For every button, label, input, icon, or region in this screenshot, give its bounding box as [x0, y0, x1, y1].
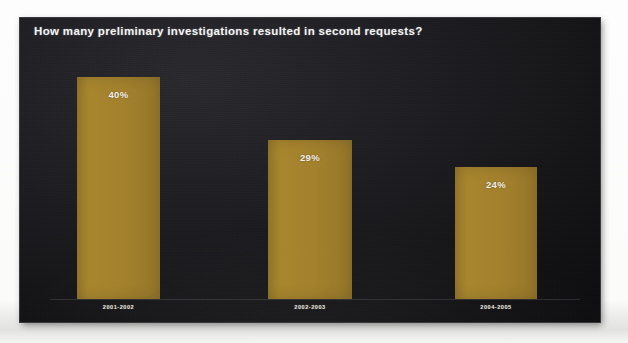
bar-chart: 40% 2001-2002 29% 2002-2003 24% 2004-200… — [20, 18, 600, 322]
chart-baseline — [50, 299, 580, 300]
presentation-slide: How many preliminary investigations resu… — [20, 18, 600, 322]
category-label-2002-2003: 2002-2003 — [268, 304, 352, 310]
category-label-2001-2002: 2001-2002 — [77, 304, 160, 310]
page-title: How many preliminary investigations resu… — [34, 25, 423, 37]
screenshot-root: How many preliminary investigations resu… — [0, 0, 628, 343]
category-label-2004-2005: 2004-2005 — [455, 304, 537, 310]
bar-value-label: 24% — [455, 179, 537, 190]
bar-2002-2003: 29% — [268, 140, 352, 299]
bar-value-label: 40% — [77, 89, 160, 100]
bar-2001-2002: 40% — [77, 77, 160, 299]
bar-value-label: 29% — [268, 152, 352, 163]
bar-2004-2005: 24% — [455, 167, 537, 299]
